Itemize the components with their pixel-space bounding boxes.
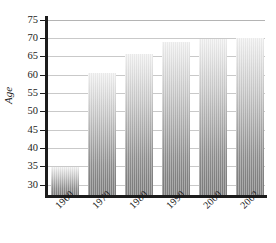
y-tick-mark-55 [40, 93, 46, 94]
y-tick-label-35: 35 [0, 161, 38, 171]
y-tick-mark-45 [40, 130, 46, 131]
y-tick-label-70: 70 [0, 33, 38, 43]
y-tick-mark-50 [40, 111, 46, 112]
bar-1980 [125, 54, 153, 196]
y-tick-mark-75 [40, 20, 46, 21]
y-tick-mark-35 [40, 166, 46, 167]
y-tick-label-30: 30 [0, 180, 38, 190]
y-tick-mark-65 [40, 56, 46, 57]
y-tick-label-60: 60 [0, 70, 38, 80]
y-axis-title: Age [2, 87, 14, 104]
y-tick-mark-40 [40, 148, 46, 149]
x-axis-line [45, 195, 267, 198]
y-tick-label-45: 45 [0, 125, 38, 135]
y-axis-line [45, 16, 48, 198]
bar-series [47, 14, 265, 196]
y-tick-mark-30 [40, 185, 46, 186]
bar-1970 [88, 73, 116, 196]
y-tick-label-75: 75 [0, 15, 38, 25]
bar-chart: 75 70 65 60 55 50 45 40 35 30 Age 1960 1… [0, 0, 276, 243]
y-tick-label-50: 50 [0, 106, 38, 116]
bar-2002 [236, 38, 264, 196]
bar-2000 [199, 39, 227, 196]
y-tick-mark-70 [40, 38, 46, 39]
y-tick-label-40: 40 [0, 143, 38, 153]
y-tick-mark-60 [40, 75, 46, 76]
bar-1990 [162, 42, 190, 196]
y-tick-label-65: 65 [0, 51, 38, 61]
